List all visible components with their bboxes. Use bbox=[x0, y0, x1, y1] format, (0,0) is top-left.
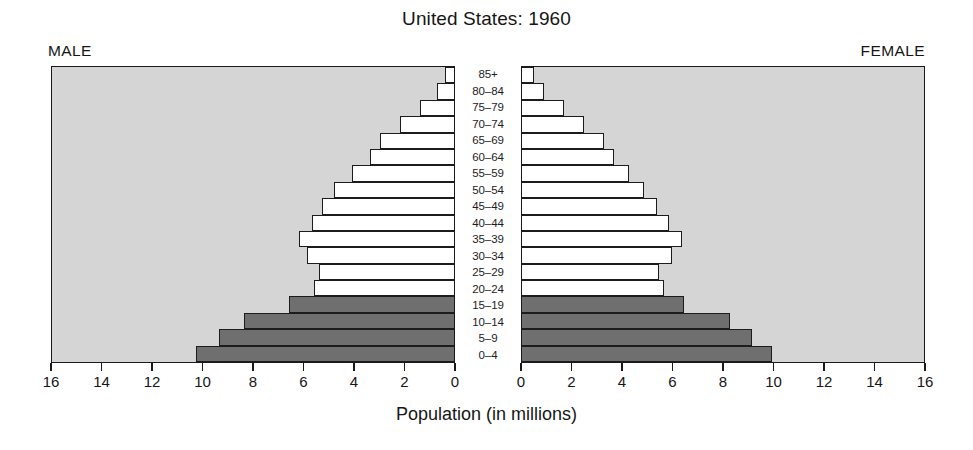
bar-female-80–84 bbox=[521, 83, 544, 99]
bar-female-75–79 bbox=[521, 100, 564, 116]
axis-tick-label-10: 10 bbox=[765, 373, 782, 390]
bar-male-5–9 bbox=[219, 329, 455, 345]
age-label-15–19: 15–19 bbox=[455, 297, 521, 314]
bar-male-0–4 bbox=[196, 346, 455, 362]
bar-male-60–64 bbox=[370, 149, 455, 165]
axis-tick bbox=[672, 363, 674, 371]
axis-tick-label-8: 8 bbox=[719, 373, 727, 390]
male-bar-group bbox=[52, 67, 454, 362]
axis-tick-label-0: 0 bbox=[517, 373, 525, 390]
bar-row bbox=[52, 264, 454, 280]
age-label-75–79: 75–79 bbox=[455, 99, 521, 116]
age-label-45–49: 45–49 bbox=[455, 198, 521, 215]
bar-row bbox=[52, 165, 454, 181]
axis-tick-label-14: 14 bbox=[93, 373, 110, 390]
bar-row bbox=[522, 296, 924, 312]
axis-tick-label-10: 10 bbox=[194, 373, 211, 390]
bar-row bbox=[52, 198, 454, 214]
bar-male-85+ bbox=[445, 67, 455, 83]
age-label-5–9: 5–9 bbox=[455, 330, 521, 347]
female-side-label: FEMALE bbox=[861, 42, 925, 60]
x-axis-title: Population (in millions) bbox=[0, 404, 973, 425]
axis-tick-label-2: 2 bbox=[567, 373, 575, 390]
axis-tick bbox=[303, 363, 305, 371]
bar-male-20–24 bbox=[314, 280, 455, 296]
axis-tick-label-6: 6 bbox=[668, 373, 676, 390]
axis-tick bbox=[50, 363, 52, 371]
bar-row bbox=[52, 100, 454, 116]
bar-male-45–49 bbox=[322, 198, 455, 214]
bar-male-50–54 bbox=[334, 182, 455, 198]
axis-tick bbox=[874, 363, 876, 371]
axis-tick-label-6: 6 bbox=[299, 373, 307, 390]
bar-female-30–34 bbox=[521, 247, 672, 263]
bar-male-80–84 bbox=[437, 83, 455, 99]
bar-female-25–29 bbox=[521, 264, 659, 280]
bar-female-55–59 bbox=[521, 165, 629, 181]
bar-male-15–19 bbox=[289, 296, 455, 312]
male-x-axis: 1614121086420 bbox=[51, 363, 455, 372]
bar-row bbox=[522, 133, 924, 149]
bar-row bbox=[52, 346, 454, 362]
axis-tick bbox=[773, 363, 775, 371]
axis-tick-label-2: 2 bbox=[400, 373, 408, 390]
male-plot-panel bbox=[51, 66, 455, 363]
bar-female-40–44 bbox=[521, 215, 669, 231]
age-label-20–24: 20–24 bbox=[455, 281, 521, 298]
bar-row bbox=[522, 215, 924, 231]
bar-male-70–74 bbox=[400, 116, 455, 132]
bar-row bbox=[52, 133, 454, 149]
age-label-35–39: 35–39 bbox=[455, 231, 521, 248]
bar-male-40–44 bbox=[312, 215, 455, 231]
population-pyramid-figure: United States: 1960 MALE FEMALE 85+80–84… bbox=[0, 0, 973, 450]
bar-row bbox=[522, 346, 924, 362]
bar-male-30–34 bbox=[307, 247, 455, 263]
axis-tick-label-8: 8 bbox=[249, 373, 257, 390]
age-label-85+: 85+ bbox=[455, 66, 521, 83]
age-label-40–44: 40–44 bbox=[455, 215, 521, 232]
bar-male-65–69 bbox=[380, 133, 455, 149]
age-label-50–54: 50–54 bbox=[455, 182, 521, 199]
axis-tick bbox=[722, 363, 724, 371]
axis-tick bbox=[924, 363, 926, 371]
bar-female-5–9 bbox=[521, 329, 752, 345]
age-group-labels: 85+80–8475–7970–7465–6960–6455–5950–5445… bbox=[455, 66, 521, 363]
axis-tick bbox=[353, 363, 355, 371]
bar-row bbox=[522, 67, 924, 83]
bar-female-15–19 bbox=[521, 296, 684, 312]
bar-row bbox=[522, 329, 924, 345]
axis-tick bbox=[404, 363, 406, 371]
age-label-55–59: 55–59 bbox=[455, 165, 521, 182]
axis-tick-label-12: 12 bbox=[144, 373, 161, 390]
bar-row bbox=[522, 264, 924, 280]
bar-row bbox=[52, 67, 454, 83]
axis-tick-label-4: 4 bbox=[618, 373, 626, 390]
bar-row bbox=[52, 296, 454, 312]
bar-female-70–74 bbox=[521, 116, 584, 132]
bar-male-10–14 bbox=[244, 313, 455, 329]
bar-row bbox=[522, 116, 924, 132]
bar-female-60–64 bbox=[521, 149, 614, 165]
bar-male-25–29 bbox=[319, 264, 455, 280]
female-plot-panel bbox=[521, 66, 925, 363]
bar-female-0–4 bbox=[521, 346, 772, 362]
axis-tick-label-14: 14 bbox=[866, 373, 883, 390]
female-x-axis: 0246810121416 bbox=[521, 363, 925, 372]
bar-female-65–69 bbox=[521, 133, 604, 149]
bar-row bbox=[522, 83, 924, 99]
bar-row bbox=[522, 313, 924, 329]
age-label-70–74: 70–74 bbox=[455, 116, 521, 133]
axis-tick bbox=[454, 363, 456, 371]
axis-tick bbox=[252, 363, 254, 371]
female-bar-group bbox=[522, 67, 924, 362]
axis-tick-label-0: 0 bbox=[451, 373, 459, 390]
bar-female-85+ bbox=[521, 67, 534, 83]
bar-female-45–49 bbox=[521, 198, 657, 214]
bar-row bbox=[52, 116, 454, 132]
bar-row bbox=[522, 231, 924, 247]
axis-tick-label-12: 12 bbox=[816, 373, 833, 390]
bar-row bbox=[522, 100, 924, 116]
axis-tick bbox=[520, 363, 522, 371]
bar-row bbox=[52, 247, 454, 263]
bar-male-55–59 bbox=[352, 165, 455, 181]
